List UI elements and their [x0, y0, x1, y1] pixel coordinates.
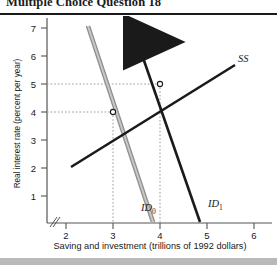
y-tick-label-6: 6 — [22, 51, 36, 62]
y-tick-label-2: 2 — [22, 163, 36, 174]
curve-label-id0: ID0 — [141, 202, 156, 216]
y-axis-title: Real interest rate (percent per year) — [13, 44, 22, 204]
footer-bar — [0, 258, 277, 265]
curve-label-id1-sub: 1 — [219, 203, 223, 212]
curve-label-id1-text: ID — [208, 198, 219, 209]
y-tick-label-4: 4 — [22, 107, 36, 118]
x-tick-label-5: 5 — [199, 230, 215, 241]
y-tick-label-5: 5 — [22, 79, 36, 90]
curve-label-ss: SS — [238, 53, 249, 64]
y-tick-label-3: 3 — [22, 135, 36, 146]
y-axis-ticks — [41, 28, 47, 196]
new-equilibrium-point — [157, 81, 162, 86]
curve-ss — [71, 65, 235, 167]
page-title: Multiple Choice Question 18 — [6, 0, 161, 10]
header-divider — [0, 13, 277, 15]
y-tick-label-1: 1 — [22, 191, 36, 202]
chart-figure: 1 2 3 4 5 6 7 2 3 4 5 6 SS ID0 ID1 Real … — [0, 16, 277, 258]
x-tick-label-3: 3 — [105, 230, 121, 241]
axis-break-mark — [50, 217, 60, 227]
chart-plot-area — [0, 16, 277, 258]
x-tick-label-2: 2 — [58, 230, 74, 241]
curve-label-id1: ID1 — [208, 198, 223, 212]
curve-id0 — [86, 26, 154, 222]
curve-label-id0-text: ID — [141, 202, 152, 213]
curve-label-id0-sub: 0 — [152, 207, 156, 216]
initial-equilibrium-point — [110, 109, 115, 114]
x-tick-label-6: 6 — [246, 230, 262, 241]
x-axis-title: Saving and investment (trillions of 1992… — [30, 241, 270, 251]
x-tick-label-4: 4 — [152, 230, 168, 241]
x-axis-ticks — [66, 223, 254, 229]
equilibrium-markers — [110, 81, 162, 114]
y-tick-label-7: 7 — [22, 23, 36, 34]
